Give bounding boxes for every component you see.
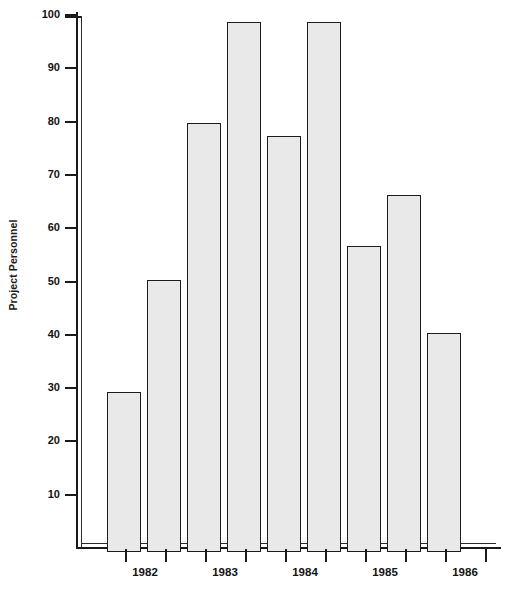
y-axis-tick: 40 <box>65 334 76 336</box>
y-axis-tick-label: 60 <box>48 221 60 233</box>
x-axis-tick <box>485 549 487 562</box>
y-axis-spine-inner <box>81 16 82 549</box>
bar <box>267 136 301 552</box>
x-axis-group-label: 1983 <box>212 566 238 578</box>
y-axis-tick: 90 <box>65 67 76 69</box>
y-axis-tick-label: 40 <box>48 328 60 340</box>
x-axis-tick <box>405 549 407 562</box>
x-axis-group-label: 1984 <box>292 566 318 578</box>
bar <box>387 195 421 552</box>
x-axis-group-label: 1982 <box>132 566 158 578</box>
bar <box>347 246 381 552</box>
y-axis-tick-label: 50 <box>48 275 60 287</box>
x-axis-tick <box>365 549 367 562</box>
y-axis-tick: 30 <box>65 387 76 389</box>
y-axis-tick-label: 80 <box>48 115 60 127</box>
x-axis-tick <box>325 549 327 562</box>
x-axis-tick <box>165 549 167 562</box>
x-axis-group-label: 1985 <box>372 566 398 578</box>
y-axis-tick-label: 30 <box>48 381 60 393</box>
bar <box>187 123 221 552</box>
bar <box>427 333 461 552</box>
y-axis-tick-label: 10 <box>48 488 60 500</box>
bar <box>227 22 261 552</box>
y-axis-tick: 80 <box>65 121 76 123</box>
y-axis-tick: 50 <box>65 281 76 283</box>
x-axis-tick <box>285 549 287 562</box>
bar <box>147 280 181 552</box>
bar <box>107 392 141 552</box>
y-axis-top-cap <box>65 16 81 18</box>
bar <box>307 22 341 552</box>
y-axis-tick: 100 <box>65 14 76 16</box>
y-axis-tick-label: 20 <box>48 434 60 446</box>
bar-chart: Project Personnel 100908070605040302010 … <box>0 0 515 589</box>
x-axis-tick <box>125 549 127 562</box>
y-axis-title-text: Project Personnel <box>7 220 19 311</box>
y-axis-tick-label: 70 <box>48 168 60 180</box>
y-axis-tick: 60 <box>65 227 76 229</box>
x-axis-tick <box>205 549 207 562</box>
x-axis-tick <box>445 549 447 562</box>
y-axis-tick-label: 100 <box>42 8 60 20</box>
y-axis-tick: 70 <box>65 174 76 176</box>
y-axis-spine <box>76 12 78 549</box>
y-axis-tick: 20 <box>65 440 76 442</box>
y-axis-tick-label: 90 <box>48 61 60 73</box>
x-axis-tick <box>245 549 247 562</box>
plot-area: 100908070605040302010 198219831984198519… <box>76 12 501 552</box>
y-axis-title: Project Personnel <box>2 190 24 340</box>
y-axis-tick: 10 <box>65 494 76 496</box>
x-axis-group-label: 1986 <box>452 566 478 578</box>
